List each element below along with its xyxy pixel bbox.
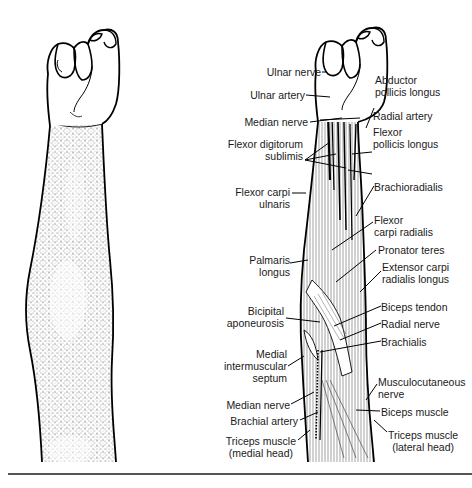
label-triceps-lateral-head: Triceps muscle (lateral head) bbox=[388, 429, 458, 453]
forearm-anatomy-figure: Ulnar nerve Ulnar artery Median nerve Fl… bbox=[0, 0, 472, 488]
label-ulnar-artery: Ulnar artery bbox=[250, 89, 305, 101]
label-median-nerve-lower: Median nerve bbox=[226, 399, 290, 411]
label-abductor-pollicis-longus: Abductor pollicis longus bbox=[375, 74, 440, 98]
label-ulnar-nerve: Ulnar nerve bbox=[267, 66, 321, 78]
label-flexor-carpi-ulnaris: Flexor carpi ulnaris bbox=[235, 186, 290, 210]
label-radial-artery: Radial artery bbox=[373, 110, 433, 122]
label-brachialis: Brachialis bbox=[381, 336, 427, 348]
label-triceps-medial-head: Triceps muscle (medial head) bbox=[226, 435, 296, 459]
label-radial-nerve: Radial nerve bbox=[381, 318, 440, 330]
label-extensor-carpi-radialis-longus: Extensor carpi radialis longus bbox=[382, 261, 449, 285]
label-bicipital-aponeurosis: Bicipital aponeurosis bbox=[227, 305, 284, 329]
label-biceps-muscle: Biceps muscle bbox=[381, 406, 449, 418]
label-brachioradialis: Brachioradialis bbox=[374, 181, 443, 193]
label-pronator-teres: Pronator teres bbox=[378, 244, 445, 256]
label-musculocutaneous-nerve: Musculocutaneous nerve bbox=[378, 376, 466, 400]
label-brachial-artery: Brachial artery bbox=[230, 415, 298, 427]
bottom-rule-divider bbox=[8, 473, 472, 475]
label-flexor-carpi-radialis: Flexor carpi radialis bbox=[374, 214, 433, 238]
label-flexor-pollicis-longus: Flexor pollicis longus bbox=[373, 126, 438, 150]
label-biceps-tendon: Biceps tendon bbox=[381, 301, 448, 313]
label-flexor-digitorum-sublimis: Flexor digitorum sublimis bbox=[228, 138, 303, 162]
label-palmaris-longus: Palmaris longus bbox=[249, 254, 290, 278]
label-medial-intermuscular-septum: Medial intermuscular septum bbox=[224, 348, 287, 384]
label-median-nerve-upper: Median nerve bbox=[244, 116, 308, 128]
